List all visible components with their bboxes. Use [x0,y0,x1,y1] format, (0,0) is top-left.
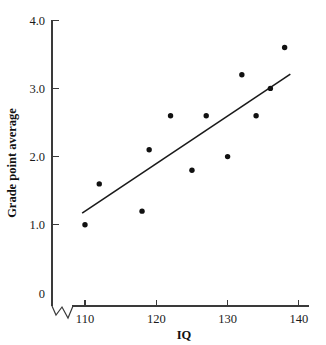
axis-break-zigzag [52,306,73,318]
y-tick-label: 4.0 [29,14,45,28]
y-tick-label: 3.0 [29,82,45,96]
y-tick-label: 0 [39,287,45,301]
data-point [268,86,273,91]
y-tick-label: 1.0 [29,218,45,232]
x-tick-label: 120 [147,312,166,326]
data-point [146,147,151,152]
x-tick-label: 140 [290,312,309,326]
x-tick-label: 130 [218,312,237,326]
regression-line [82,74,290,213]
data-points [82,45,287,228]
data-point [239,72,244,77]
trend-line [82,74,290,213]
y-tick-label: 2.0 [29,150,45,164]
data-point [82,222,87,227]
x-tick-label: 110 [76,312,94,326]
x-axis [72,300,309,306]
data-point [189,168,194,173]
axis-break-mark [52,306,73,318]
x-axis-title: IQ [177,328,192,342]
x-tick-labels: 110120130140 [76,312,308,326]
data-point [139,208,144,213]
plot-canvas: 01.02.03.04.0 110120130140 IQ Grade poin… [0,0,326,345]
y-tick-labels: 01.02.03.04.0 [29,14,45,301]
data-point [97,181,102,186]
data-point [282,45,287,50]
data-point [253,113,258,118]
data-point [168,113,173,118]
data-point [204,113,209,118]
data-point [225,154,230,159]
scatter-plot-figure: 01.02.03.04.0 110120130140 IQ Grade poin… [0,0,326,345]
y-axis [52,20,59,306]
y-axis-title: Grade point average [5,108,19,218]
